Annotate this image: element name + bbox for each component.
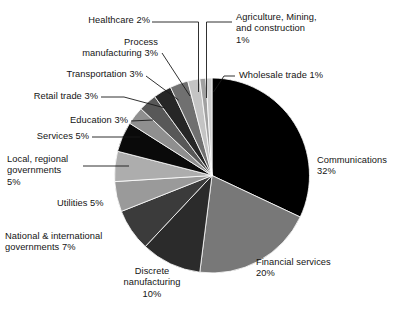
label-wholesale-trade: Wholesale trade 1% — [239, 70, 369, 81]
label-healthcare: Healthcare 2% — [40, 15, 150, 26]
label-retail-trade: Retail trade 3% — [14, 91, 98, 102]
label-local-regional: Local, regional governments 5% — [7, 154, 97, 188]
pie-chart-figure: Agriculture, Mining, and construction 1%… — [0, 0, 413, 317]
label-national-international: National & international governments 7% — [5, 231, 150, 254]
label-communications: Communications 32% — [317, 155, 413, 178]
label-discrete-manufacturing: Discrete nanufacturing 10% — [98, 266, 206, 300]
label-services: Services 5% — [6, 131, 89, 142]
label-utilities: Utilities 5% — [57, 198, 147, 209]
label-process-manufacturing: Process manufacturing 3% — [36, 37, 158, 60]
label-financial-services: Financial services 20% — [256, 257, 376, 280]
label-transportation: Transportation 3% — [25, 69, 143, 80]
label-education: Education 3% — [28, 115, 128, 126]
label-agriculture: Agriculture, Mining, and construction 1% — [236, 12, 356, 46]
